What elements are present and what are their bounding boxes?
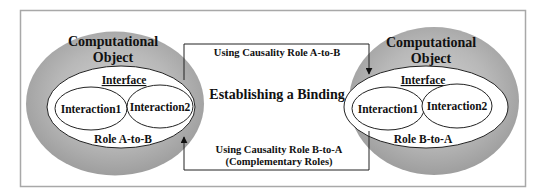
right-interaction1-label: Interaction1: [358, 103, 419, 115]
right-interface-label: Interface: [401, 74, 446, 86]
bottom-connector-label-line2: (Complementary Roles): [225, 156, 333, 168]
left-role-label: Role A-to-B: [94, 133, 152, 145]
left-object-title-line1: Computational: [68, 34, 158, 49]
top-connector-label: Using Causality Role A-to-B: [214, 47, 340, 58]
left-interface-label: Interface: [102, 74, 147, 86]
binding-diagram: Computational Object Interface Interacti…: [0, 0, 547, 195]
right-interaction2-label: Interaction2: [427, 100, 488, 112]
diagram-title: Establishing a Binding: [209, 87, 344, 102]
left-computational-object: Computational Object Interface Interacti…: [26, 32, 204, 176]
left-object-title-line2: Object: [93, 50, 134, 65]
left-interaction1-label: Interaction1: [61, 103, 122, 115]
right-object-title-line1: Computational: [386, 35, 476, 50]
bottom-connector-label-line1: Using Causality Role B-to-A: [216, 144, 343, 155]
left-interaction2-label: Interaction2: [130, 101, 191, 113]
right-role-label: Role B-to-A: [394, 133, 453, 145]
right-object-title-line2: Object: [411, 51, 452, 66]
